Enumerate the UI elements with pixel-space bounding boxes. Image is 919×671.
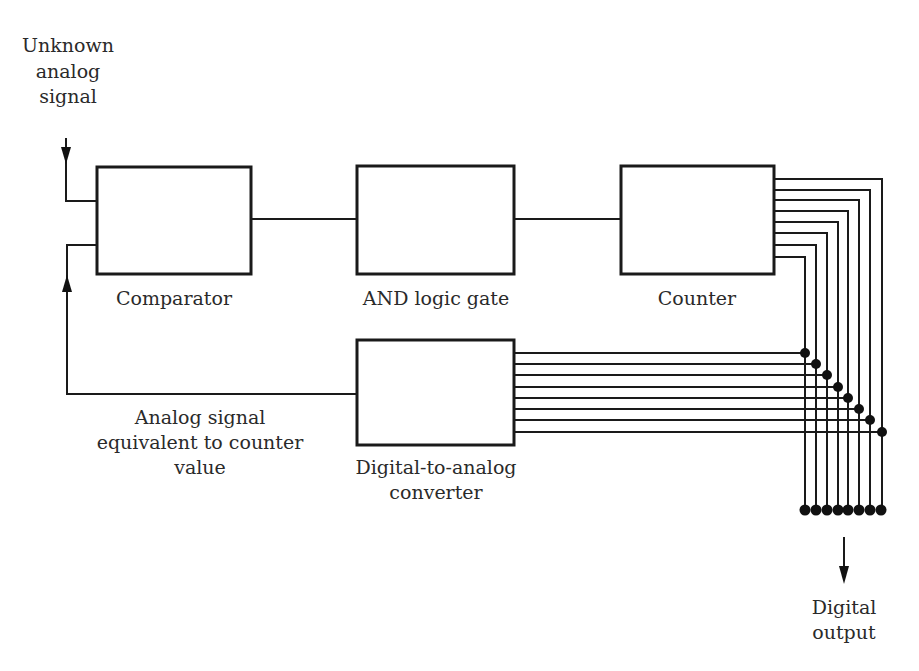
dac-block: Digital-to-analog converter [355, 340, 516, 503]
feedback-label-line-2: equivalent to counter [97, 431, 305, 453]
and-gate-block: AND logic gate [357, 166, 514, 309]
counter-block: Counter [621, 166, 774, 309]
feedback-label-line-3: value [173, 456, 226, 478]
input-wire [61, 138, 97, 201]
comparator-label: Comparator [116, 287, 233, 309]
input-signal-label: Unknown analog signal [22, 34, 114, 107]
input-label-line-3: signal [39, 85, 97, 107]
dac-label-line-1: Digital-to-analog [355, 456, 516, 478]
output-arrow [839, 537, 849, 584]
feedback-label-line-1: Analog signal [134, 406, 266, 428]
dac-label-line-2: converter [389, 481, 483, 503]
output-label-line-1: Digital [812, 596, 877, 618]
output-label-line-2: output [812, 621, 876, 643]
counter-output-bus [774, 179, 882, 510]
input-label-line-2: analog [36, 60, 101, 82]
down-arrow-icon [61, 147, 71, 164]
output-label: Digital output [812, 596, 877, 643]
comparator-block: Comparator [97, 167, 251, 309]
input-label-line-1: Unknown [22, 34, 114, 56]
output-terminals [800, 505, 887, 516]
feedback-label: Analog signal equivalent to counter valu… [97, 406, 305, 478]
down-arrow-icon [839, 566, 849, 584]
bus-junction-dots [800, 348, 887, 437]
counter-label: Counter [658, 287, 737, 309]
and-gate-label: AND logic gate [362, 287, 509, 309]
adc-block-diagram: Unknown analog signal Comparator AND log… [0, 0, 919, 671]
up-arrow-icon [62, 275, 72, 292]
